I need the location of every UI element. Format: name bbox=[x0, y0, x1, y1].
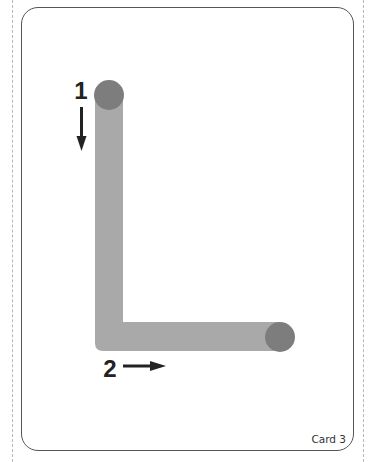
stroke-2-number: 2 bbox=[103, 355, 116, 382]
letter-l-shape bbox=[95, 95, 280, 351]
arrow-down-icon bbox=[77, 107, 87, 151]
stroke-1-start-dot bbox=[94, 80, 124, 110]
arrow-right-icon bbox=[123, 361, 166, 371]
stroke-2-start-dot bbox=[265, 322, 295, 352]
stroke-1-number: 1 bbox=[74, 77, 87, 104]
card-number-label: Card 3 bbox=[311, 433, 346, 445]
letter-tracing-art: 1 2 bbox=[0, 0, 370, 462]
